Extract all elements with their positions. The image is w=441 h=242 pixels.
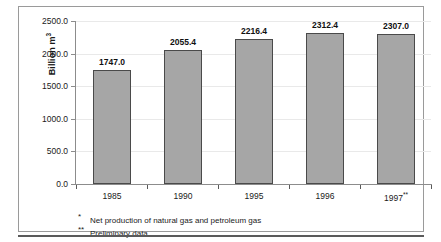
x-tick-label-note: ** [403,191,408,198]
x-tick-label: 1996 [290,192,360,201]
y-tick-mark [71,86,75,87]
y-tick-label: 2500.0 [22,17,68,26]
x-tick-mark [76,185,77,189]
bottom-rule [18,235,424,237]
y-tick-mark [71,184,75,185]
x-tick-label-text: 1997 [384,193,403,203]
bar [235,39,273,184]
x-tick-mark [218,185,219,189]
y-axis-title-superscript: 3 [45,33,52,37]
bar [164,50,202,184]
footnote-text: Net production of natural gas and petrol… [90,216,261,225]
y-tick-label: 500.0 [22,147,68,156]
chart-frame: Billion m3 0.0500.01000.01500.02000.0250… [18,6,424,232]
x-tick-label: 1995 [219,192,289,201]
bar [93,70,131,184]
bar-value-label: 1747.0 [82,58,142,67]
bar-value-label: 2216.4 [224,27,284,36]
y-tick-label: 1000.0 [22,115,68,124]
x-axis-line [76,184,432,185]
y-tick-mark [71,119,75,120]
footnote: *Net production of natural gas and petro… [78,213,408,226]
x-tick-label-text: 1995 [245,191,264,201]
y-tick-label: 2000.0 [22,50,68,59]
bar [306,33,344,184]
bar-value-label: 2055.4 [153,38,213,47]
y-tick-mark [71,54,75,55]
bar-value-label: 2307.0 [366,22,426,31]
x-tick-label: 1990 [148,192,218,201]
y-tick-mark [71,151,75,152]
x-tick-mark [147,185,148,189]
x-tick-label: 1985 [77,192,147,201]
x-tick-label-text: 1996 [316,191,335,201]
bar-value-label: 2312.4 [295,21,355,30]
y-tick-label: 0.0 [22,180,68,189]
footnote-marker: * [78,213,90,221]
y-tick-label: 1500.0 [22,82,68,91]
bar [377,34,415,184]
x-tick-mark [431,185,432,189]
x-tick-mark [289,185,290,189]
x-tick-label-text: 1990 [174,191,193,201]
x-tick-label-text: 1985 [103,191,122,201]
x-tick-label: 1997** [361,192,431,202]
y-tick-mark [71,21,75,22]
footnote-marker: ** [78,226,90,234]
y-axis-line [75,21,76,185]
x-tick-mark [360,185,361,189]
